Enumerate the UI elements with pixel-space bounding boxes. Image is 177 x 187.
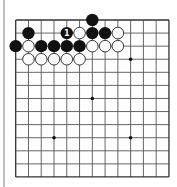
white-stone[interactable]: [61, 53, 73, 65]
white-stone[interactable]: [48, 53, 60, 65]
white-stone[interactable]: [87, 40, 99, 52]
white-stone[interactable]: [112, 40, 124, 52]
black-stone[interactable]: [10, 40, 22, 52]
black-stone[interactable]: [35, 40, 47, 52]
black-stone[interactable]: [86, 27, 98, 39]
black-stone[interactable]: [99, 27, 111, 39]
star-point: [129, 136, 133, 140]
white-stone[interactable]: [74, 53, 86, 65]
black-stone[interactable]: [73, 40, 85, 52]
star-point: [91, 97, 95, 101]
white-stone[interactable]: [74, 27, 86, 39]
star-point: [52, 136, 56, 140]
white-stone[interactable]: [35, 53, 47, 65]
black-stone[interactable]: [86, 14, 98, 26]
star-point: [129, 57, 133, 61]
black-stone[interactable]: [61, 40, 73, 52]
white-stone[interactable]: [23, 40, 35, 52]
black-stone[interactable]: [22, 27, 34, 39]
go-board[interactable]: 1: [0, 0, 177, 187]
white-stone[interactable]: [23, 53, 35, 65]
black-stone[interactable]: [48, 40, 60, 52]
move-number-label: 1: [64, 29, 70, 38]
white-stone[interactable]: [99, 40, 111, 52]
white-stone[interactable]: [112, 27, 124, 39]
